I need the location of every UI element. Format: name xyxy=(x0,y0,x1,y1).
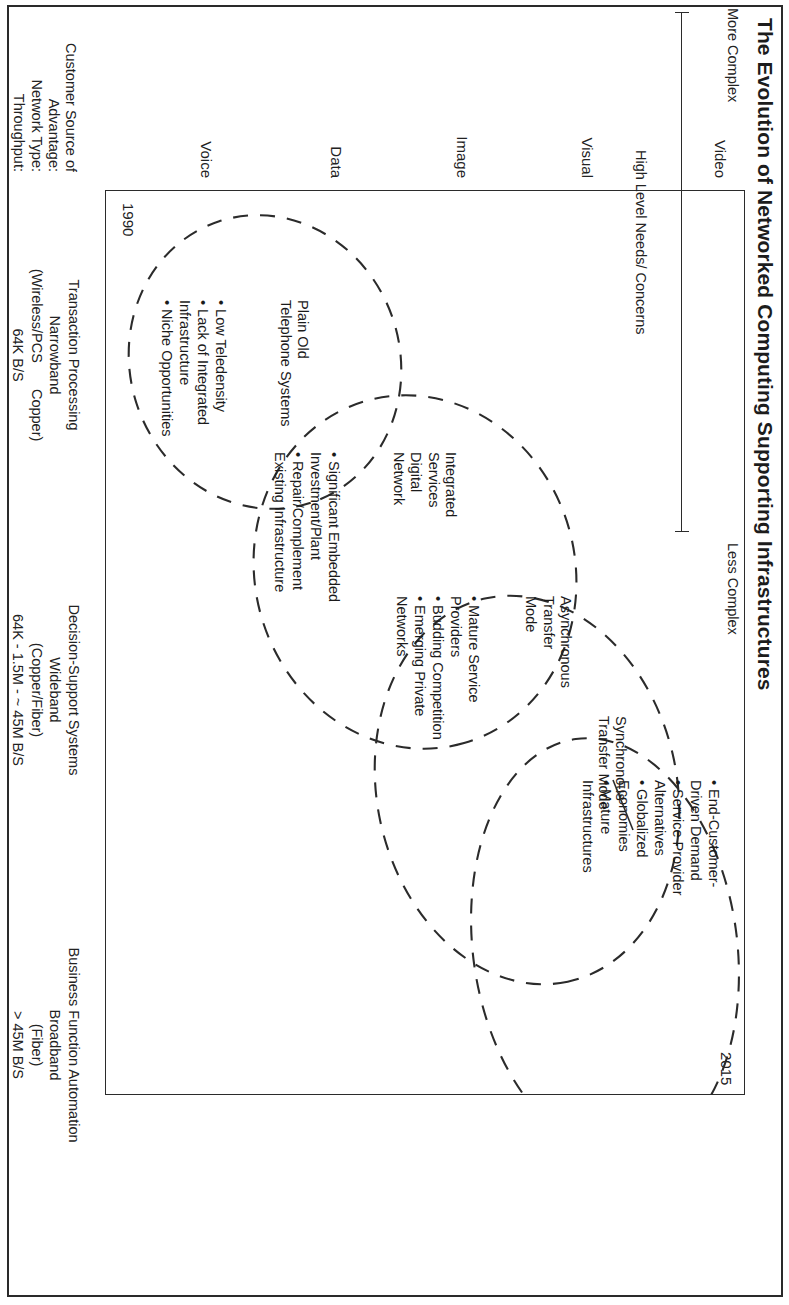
stage2-title: Integrated Services Digital Network xyxy=(389,452,459,517)
col1-advantage: Transaction Processing xyxy=(64,205,83,505)
complexity-scale-tick-start xyxy=(675,12,689,13)
page-root: The Evolution of Networked Computing Sup… xyxy=(0,0,789,1305)
column-broadband: Business Function Automation Broadband (… xyxy=(9,880,83,1210)
y-axis-label-voice: Voice xyxy=(198,68,215,178)
col3-type: Broadband xyxy=(46,880,65,1210)
y-axis-label-data: Data xyxy=(328,68,345,178)
col2-advantage: Decision-Support Systems xyxy=(64,530,83,850)
axis-row-label-advantage: Customer Source of Advantage: xyxy=(44,22,79,172)
col3-advantage: Business Function Automation xyxy=(64,880,83,1210)
stage4-bullet-4: Mature Infrastructures xyxy=(561,780,631,873)
figure-canvas: The Evolution of Networked Computing Sup… xyxy=(0,0,789,1305)
complexity-more-label: More Complex xyxy=(724,8,741,102)
col2-type: Wideband xyxy=(46,530,65,850)
figure-title: The Evolution of Networked Computing Sup… xyxy=(753,18,777,690)
stage3-bullet-3: Emerging Private Networks xyxy=(375,596,445,716)
col2-media-a: (Copper/Fiber) xyxy=(27,530,46,850)
col1-type: Narrowband xyxy=(46,205,65,505)
col2-throughput: 64K - 1.5M - ~ 45M B/S xyxy=(9,530,28,850)
axis-row-label-throughput: Throughput: xyxy=(10,22,27,172)
col1-media-a: (Wireless/PCS xyxy=(27,269,46,363)
stage3-title: Asynchronous Transfer Mode xyxy=(522,596,574,688)
axis-row-label-network-type: Network Type: xyxy=(28,22,45,172)
column-narrowband: Transaction Processing Narrowband (Wirel… xyxy=(9,205,83,505)
col1-media-b: Copper) xyxy=(27,389,46,441)
col3-media-a: (Fiber) xyxy=(27,880,46,1210)
y-axis-label-visual: Visual xyxy=(579,68,596,178)
stage2-bullet-2: Repair/Complement Existing Infrastructur… xyxy=(253,452,323,592)
column-wideband: Decision-Support Systems Wideband (Coppe… xyxy=(9,530,83,850)
stage1-bullet-3: Niche Opportunities xyxy=(140,300,192,436)
stage1-title: Plain Old Telephone Systems xyxy=(276,300,311,427)
col1-throughput: 64K B/S xyxy=(9,205,28,505)
y-axis-label-image: Image xyxy=(454,68,471,178)
col3-throughput: > 45M B/S xyxy=(9,880,28,1210)
